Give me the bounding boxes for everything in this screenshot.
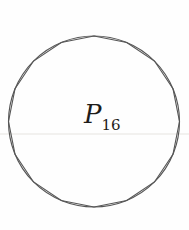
polygon-label-letter: P [84, 99, 102, 129]
polygon-label-subscript: 16 [102, 116, 121, 134]
polygon-label: P16 [84, 101, 121, 127]
inscribed-polygon-figure: P16 [0, 0, 189, 230]
